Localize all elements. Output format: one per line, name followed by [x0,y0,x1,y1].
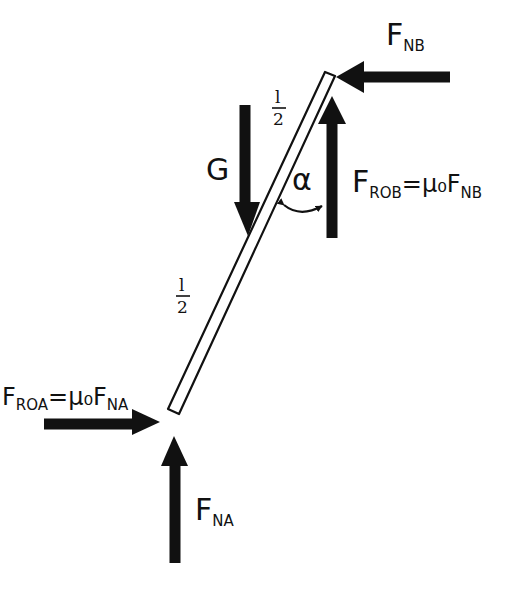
length-label-lower: l 2 [176,275,190,317]
force-froa-arrow [44,409,160,435]
svg-text:l: l [275,87,280,107]
label-froa: FROA=μ₀FNA [2,383,129,414]
label-frob: FROB=μ₀FNB [352,164,482,202]
force-g-arrow [234,105,260,236]
svg-text:2: 2 [177,297,188,317]
force-fna-arrow [161,436,188,563]
label-alpha: α [292,162,312,197]
rod [168,72,335,414]
force-fnb-arrow [336,61,450,93]
label-fnb: FNB [386,17,425,55]
svg-text:l: l [179,275,184,295]
label-g: G [206,152,229,187]
label-fna: FNA [195,492,234,530]
svg-text:2: 2 [273,109,284,129]
length-label-upper: l 2 [272,87,286,129]
free-body-diagram: FNB FROB=μ₀FNB G FROA=μ₀FNA FNA α l 2 l … [0,0,521,589]
force-frob-arrow [318,96,346,238]
angle-arc [284,205,322,212]
